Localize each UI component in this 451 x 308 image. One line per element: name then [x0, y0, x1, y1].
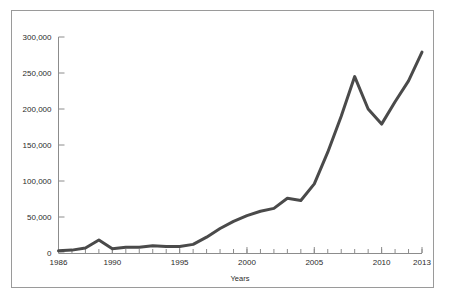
y-axis-ticks	[59, 37, 65, 253]
x-axis-tick-labels: 1986199019952000200520102013	[50, 258, 432, 267]
x-tick-label-1990: 1990	[103, 258, 121, 267]
y-tick-label-200000: 200,000	[23, 105, 52, 114]
y-tick-label-0: 0	[47, 249, 52, 258]
data-series-line	[59, 52, 423, 251]
y-tick-label-300000: 300,000	[23, 33, 52, 42]
y-axis-tick-labels: 050,000100,000150,000200,000250,000300,0…	[23, 33, 52, 258]
y-tick-label-100000: 100,000	[23, 177, 52, 186]
line-chart: 050,000100,000150,000200,000250,000300,0…	[0, 0, 451, 308]
figure-root: 050,000100,000150,000200,000250,000300,0…	[0, 0, 451, 308]
y-tick-label-150000: 150,000	[23, 141, 52, 150]
x-tick-label-1995: 1995	[171, 258, 189, 267]
x-tick-label-2000: 2000	[238, 258, 256, 267]
y-tick-label-50000: 50,000	[27, 213, 52, 222]
y-tick-label-250000: 250,000	[23, 69, 52, 78]
x-tick-label-2010: 2010	[373, 258, 391, 267]
x-tick-label-2013: 2013	[413, 258, 431, 267]
x-axis-title: Years	[231, 274, 250, 283]
x-tick-label-2005: 2005	[305, 258, 323, 267]
x-tick-label-1986: 1986	[50, 258, 68, 267]
